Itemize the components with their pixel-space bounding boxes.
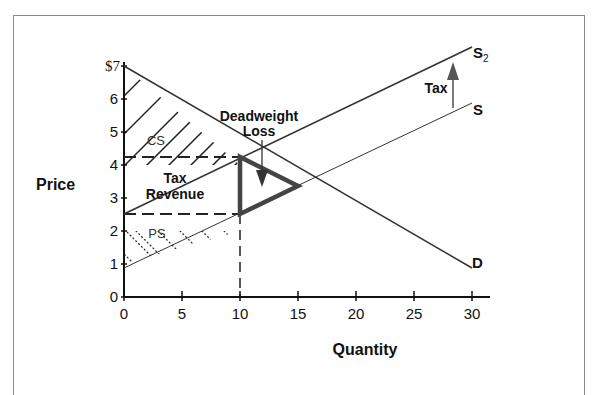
y-tick-label: 5 xyxy=(110,123,118,140)
supply-label: S xyxy=(473,101,483,118)
supply-with-tax-label: S2 xyxy=(473,44,489,64)
deadweight-loss-label: Deadweight xyxy=(220,108,299,124)
deadweight-arrow-head-icon xyxy=(256,170,268,187)
x-tick-label: 5 xyxy=(178,305,186,322)
producer-surplus-hatch xyxy=(110,215,278,285)
y-tick-label: 3 xyxy=(110,189,118,206)
tax-revenue-label: Revenue xyxy=(146,186,205,202)
x-tick-label: 25 xyxy=(406,305,423,322)
tax-arrow-up-icon xyxy=(447,62,459,80)
tax-arrow-label: Tax xyxy=(424,80,447,96)
y-tick-label: 2 xyxy=(110,222,118,239)
y-axis-title: Price xyxy=(36,176,75,193)
consumer-surplus-label: CS xyxy=(147,133,165,148)
y-tick-label: 4 xyxy=(110,156,118,173)
tax-revenue-label: Tax xyxy=(163,170,186,186)
producer-surplus-label: PS xyxy=(148,226,166,241)
x-tick-label: 15 xyxy=(290,305,307,322)
y-tick-label: 0 xyxy=(110,288,118,305)
x-tick-label: 10 xyxy=(232,305,249,322)
y-tick-label: $7 xyxy=(105,58,121,74)
y-tick-label: 6 xyxy=(110,90,118,107)
x-tick-label: 20 xyxy=(348,305,365,322)
deadweight-loss-triangle xyxy=(240,157,298,214)
demand-label: D xyxy=(472,254,483,271)
x-tick-label: 0 xyxy=(120,305,128,322)
y-tick-label: 1 xyxy=(110,255,118,272)
deadweight-loss-label: Loss xyxy=(243,123,276,139)
demand-curve xyxy=(124,66,472,268)
x-tick-label: 30 xyxy=(464,305,481,322)
x-axis-title: Quantity xyxy=(333,341,398,358)
